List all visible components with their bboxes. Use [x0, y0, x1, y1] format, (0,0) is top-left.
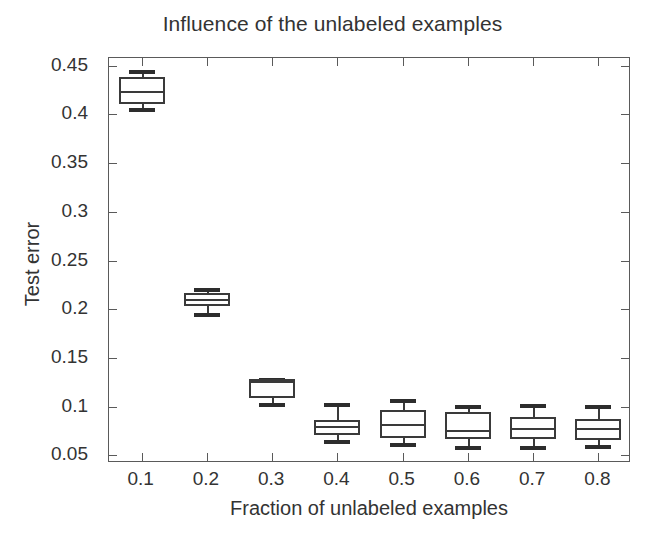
plot-area [108, 57, 630, 462]
chart-title: Influence of the unlabeled examples [0, 12, 665, 36]
y-tick-label: 0.2 [62, 297, 88, 319]
cap-lower [585, 445, 611, 449]
x-tick-label: 0.2 [193, 468, 219, 490]
x-tick-label: 0.4 [323, 468, 349, 490]
x-tick-label: 0.8 [584, 468, 610, 490]
y-axis-tick-labels: 0.050.10.150.20.250.30.350.40.45 [0, 57, 100, 462]
x-tick-label: 0.6 [454, 468, 480, 490]
boxplot-0.8 [109, 58, 629, 461]
y-tick-label: 0.45 [51, 54, 88, 76]
x-tick-label: 0.1 [127, 468, 153, 490]
y-tick-label: 0.15 [51, 346, 88, 368]
y-tick-label: 0.1 [62, 395, 88, 417]
cap-upper [585, 405, 611, 409]
x-axis-tick-labels: 0.10.20.30.40.50.60.70.8 [108, 468, 630, 494]
x-tick-label: 0.5 [388, 468, 414, 490]
x-axis-label: Fraction of unlabeled examples [108, 497, 630, 520]
y-tick-label: 0.3 [62, 200, 88, 222]
median-line [575, 428, 621, 430]
x-tick-label: 0.7 [519, 468, 545, 490]
x-tick-label: 0.3 [258, 468, 284, 490]
y-tick-label: 0.35 [51, 151, 88, 173]
y-tick-label: 0.25 [51, 249, 88, 271]
y-tick-label: 0.4 [62, 102, 88, 124]
chart-figure: Influence of the unlabeled examples Test… [0, 0, 665, 533]
boxplot-series [109, 58, 629, 461]
y-tick-label: 0.05 [51, 443, 88, 465]
